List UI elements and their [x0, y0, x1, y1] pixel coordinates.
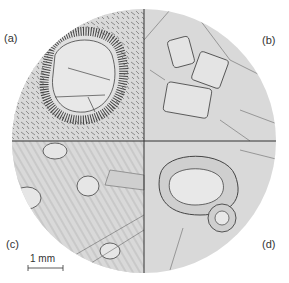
panel-label-c: (c) [6, 238, 19, 250]
panel-label-d: (d) [262, 238, 275, 250]
panel-c [0, 141, 144, 283]
scale-bar [28, 265, 63, 271]
scale-bar-label: 1 mm [30, 253, 55, 264]
micrograph-figure [0, 0, 289, 283]
panel-label-a: (a) [4, 32, 17, 44]
panel-label-b: (b) [262, 34, 275, 46]
